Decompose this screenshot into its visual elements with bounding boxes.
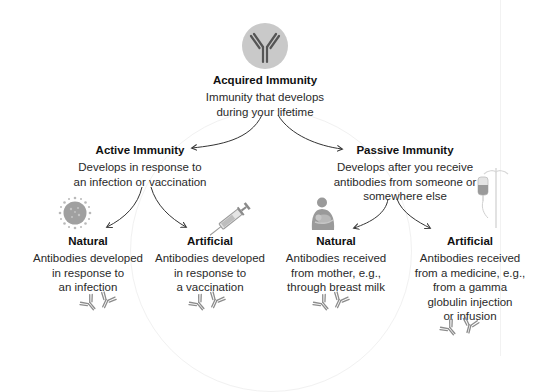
antibody-pair-active-natural [79,291,117,314]
antibody-pair-active-artificial [188,291,226,314]
antibody-pair-passive-natural [312,291,350,314]
antibody-pair-passive-artificial [439,317,479,339]
